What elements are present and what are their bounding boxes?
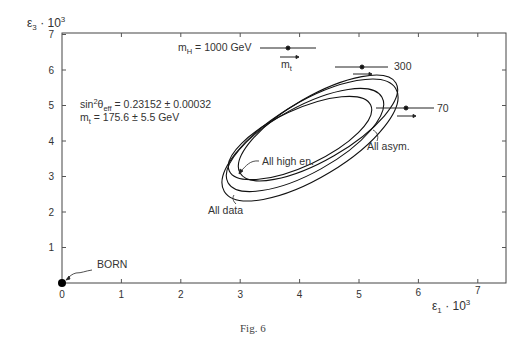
label-70: 70 (437, 102, 449, 114)
y-tick-label: 4 (48, 136, 54, 147)
leader-all-high (241, 161, 259, 171)
arrow-head-icon (413, 115, 416, 118)
y-tick-label: 2 (48, 207, 54, 218)
point-70 (404, 106, 408, 110)
arrow-head-icon (296, 56, 299, 59)
y-tick-label: 5 (48, 100, 54, 111)
leader-born (67, 270, 92, 279)
y-tick-label: 3 (48, 171, 54, 182)
point-1000 (286, 46, 290, 50)
label-born: BORN (97, 258, 127, 270)
point-300 (360, 65, 364, 69)
y-axis-label: ε3 · 103 (27, 15, 66, 32)
arrow-head-icon (66, 276, 70, 280)
x-tick-label: 6 (416, 287, 422, 298)
label-all-asym: All asym. (367, 140, 410, 152)
label-all-high-en: All high en. (262, 155, 314, 167)
x-tick-labels: 0 1 2 3 4 5 6 7 (59, 285, 481, 300)
point-born (58, 279, 66, 287)
x-tick-label: 5 (356, 289, 362, 300)
x-axis-label: ε1 · 103 (432, 298, 471, 315)
figure-caption: Fig. 6 (240, 322, 266, 334)
mt-annotation: mt = 175.6 ± 5.5 GeV (80, 111, 179, 126)
y-tick-label: 7 (48, 29, 54, 40)
label-300: 300 (394, 60, 412, 72)
x-tick-label: 2 (178, 289, 184, 300)
data-points (58, 46, 434, 287)
y-tick-label: 1 (48, 242, 54, 253)
x-tick-label: 1 (119, 289, 125, 300)
mt-arrow-label: mt (281, 58, 293, 73)
chart-svg: 0 1 2 3 4 5 6 7 1 2 3 4 5 6 7 ε3 · 103 ε… (0, 0, 530, 344)
mh-label: mH = 1000 GeV (178, 41, 251, 56)
x-tick-label: 7 (475, 285, 481, 296)
x-tick-label: 0 (59, 289, 65, 300)
x-tick-label: 4 (297, 289, 303, 300)
x-tick-label: 3 (237, 289, 243, 300)
y-tick-labels: 1 2 3 4 5 6 7 (48, 29, 54, 253)
y-tick-label: 6 (48, 65, 54, 76)
label-all-data: All data (208, 204, 243, 216)
